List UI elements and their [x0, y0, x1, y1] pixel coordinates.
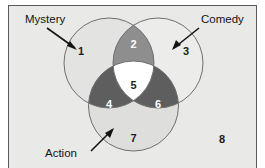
region-number-8: 8	[219, 133, 225, 145]
set-label-mystery: Mystery	[25, 13, 66, 25]
figure-frame: 1 2 3 4 5 6 7 8 Mystery Comedy Action	[8, 5, 257, 168]
set-label-comedy: Comedy	[201, 13, 244, 25]
region-number-5: 5	[130, 79, 136, 91]
region-number-1: 1	[78, 45, 84, 57]
region-number-2: 2	[130, 38, 136, 50]
region-number-6: 6	[155, 98, 161, 110]
venn-diagram-figure: 1 2 3 4 5 6 7 8 Mystery Comedy Action	[0, 0, 265, 168]
region-number-7: 7	[130, 132, 136, 144]
region-number-4: 4	[106, 98, 113, 110]
venn-diagram-canvas: 1 2 3 4 5 6 7 8 Mystery Comedy Action	[9, 6, 257, 168]
region-number-3: 3	[183, 45, 189, 57]
set-label-action: Action	[45, 147, 77, 159]
